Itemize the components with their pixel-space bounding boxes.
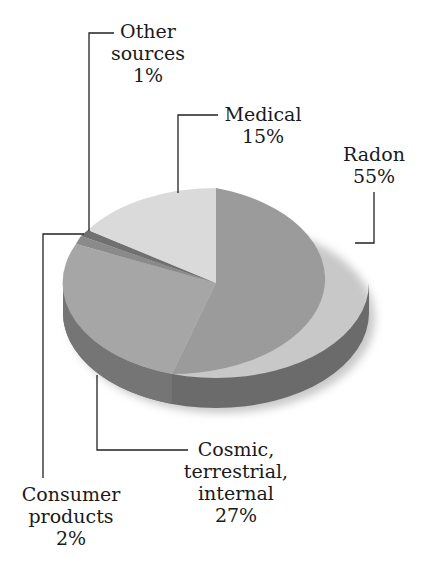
label-other-sources: Other sources 1%: [108, 20, 188, 86]
label-text: Other: [108, 20, 188, 42]
label-text: internal: [178, 482, 294, 504]
label-pct: 15%: [218, 125, 308, 147]
label-text: sources: [108, 42, 188, 64]
label-pct: 55%: [336, 165, 412, 187]
label-cosmic: Cosmic, terrestrial, internal 27%: [178, 438, 294, 526]
label-pct: 1%: [108, 64, 188, 86]
label-text: terrestrial,: [178, 460, 294, 482]
label-text: Radon: [336, 143, 412, 165]
leader-medical: [178, 115, 218, 193]
leader-radon: [355, 192, 374, 243]
label-pct: 27%: [178, 504, 294, 526]
label-consumer-products: Consumer products 2%: [16, 483, 126, 549]
label-text: products: [16, 505, 126, 527]
label-radon: Radon 55%: [336, 143, 412, 187]
label-text: Cosmic,: [178, 438, 294, 460]
label-text: Consumer: [16, 483, 126, 505]
pie-chart-figure: Other sources 1% Medical 15% Radon 55% C…: [0, 0, 432, 580]
label-medical: Medical 15%: [218, 103, 308, 147]
label-text: Medical: [218, 103, 308, 125]
label-pct: 2%: [16, 527, 126, 549]
